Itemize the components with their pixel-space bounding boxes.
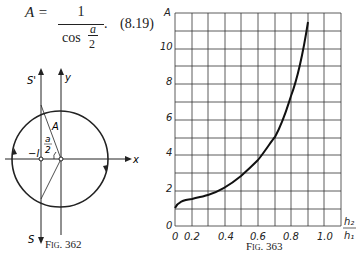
- svg-text:0.8: 0.8: [283, 231, 299, 242]
- svg-text:10: 10: [160, 41, 173, 52]
- svg-text:h₁: h₁: [344, 230, 354, 241]
- fig-363-chart: A 108 64 20 00.2 0.40.6 0.81.0 h₂ h₁: [0, 0, 357, 254]
- svg-text:0: 0: [166, 220, 172, 231]
- svg-text:0: 0: [172, 231, 178, 242]
- grid: [175, 13, 341, 226]
- svg-text:A: A: [163, 7, 171, 18]
- svg-text:h₂: h₂: [344, 216, 354, 227]
- fig-363-caption: Fig. 363: [246, 240, 283, 252]
- svg-text:2: 2: [166, 183, 172, 194]
- svg-text:0.4: 0.4: [218, 231, 234, 242]
- svg-text:0.2: 0.2: [184, 231, 200, 242]
- curve-A: [175, 22, 308, 208]
- svg-text:6: 6: [166, 112, 172, 123]
- svg-text:4: 4: [166, 147, 172, 158]
- svg-text:8: 8: [166, 76, 172, 87]
- svg-text:1.0: 1.0: [317, 231, 333, 242]
